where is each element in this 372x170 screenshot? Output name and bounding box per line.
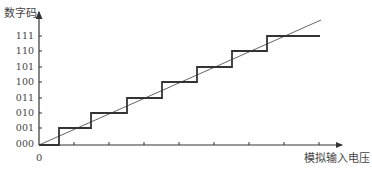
y-tick-label: 011 — [6, 93, 34, 103]
origin-label: 0 — [36, 153, 42, 163]
y-tick-label: 110 — [6, 46, 34, 56]
y-tick-label: 101 — [6, 62, 34, 72]
y-tick-label: 001 — [6, 123, 34, 133]
adc-transfer-chart — [0, 0, 372, 170]
quantization-staircase — [39, 36, 320, 145]
y-tick-label: 000 — [6, 139, 34, 149]
y-tick-label: 100 — [6, 77, 34, 87]
y-tick-label: 010 — [6, 108, 34, 118]
y-tick-label: 111 — [6, 31, 34, 41]
y-axis-label: 数字码 — [4, 9, 37, 19]
x-axis-label: 模拟输入电压 — [304, 154, 370, 164]
